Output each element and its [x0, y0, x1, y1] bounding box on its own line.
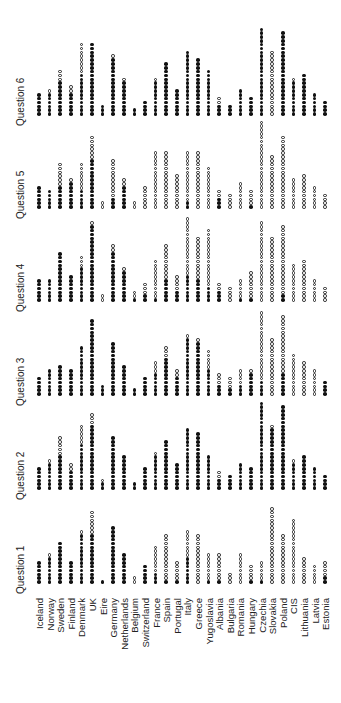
open-dot — [175, 373, 179, 377]
filled-dot — [48, 198, 52, 202]
open-dot — [260, 194, 264, 198]
filled-dot — [58, 205, 62, 209]
filled-dot — [111, 576, 115, 580]
filled-dot — [37, 576, 41, 580]
filled-dot — [164, 471, 168, 475]
open-dot — [69, 178, 73, 182]
open-dot — [270, 271, 274, 275]
open-dot — [260, 331, 264, 335]
filled-dot — [122, 467, 126, 471]
filled-dot — [164, 108, 168, 112]
open-dot — [90, 151, 94, 155]
filled-dot — [90, 538, 94, 542]
filled-dot — [164, 444, 168, 448]
open-dot — [207, 229, 211, 233]
filled-dot — [281, 455, 285, 459]
open-dot — [323, 194, 327, 198]
filled-dot — [260, 463, 264, 467]
open-dot — [69, 467, 73, 471]
filled-dot — [69, 275, 73, 279]
open-dot — [281, 248, 285, 252]
open-dot — [281, 369, 285, 373]
open-dot — [196, 252, 200, 256]
open-dot — [164, 271, 168, 275]
filled-dot — [207, 369, 211, 373]
filled-dot — [58, 186, 62, 190]
filled-dot — [196, 354, 200, 358]
filled-dot — [186, 342, 190, 346]
open-dot — [281, 361, 285, 365]
open-dot — [196, 201, 200, 205]
filled-dot — [122, 97, 126, 101]
filled-dot — [80, 74, 84, 78]
open-dot — [80, 66, 84, 70]
filled-dot — [196, 294, 200, 298]
open-dot — [58, 74, 62, 78]
open-dot — [207, 198, 211, 202]
filled-dot — [90, 323, 94, 327]
filled-dot — [122, 486, 126, 490]
filled-dot — [111, 546, 115, 550]
filled-dot — [58, 264, 62, 268]
open-dot — [207, 561, 211, 565]
open-dot — [175, 561, 179, 565]
filled-dot — [196, 463, 200, 467]
filled-dot — [90, 561, 94, 565]
filled-dot — [186, 448, 190, 452]
filled-dot — [37, 291, 41, 295]
filled-dot — [90, 267, 94, 271]
filled-dot — [90, 182, 94, 186]
filled-dot — [154, 112, 158, 116]
filled-dot — [154, 108, 158, 112]
open-dot — [164, 155, 168, 159]
filled-dot — [302, 108, 306, 112]
country-label: Latvia — [310, 598, 321, 678]
filled-dot — [90, 327, 94, 331]
filled-dot — [143, 108, 147, 112]
filled-dot — [48, 287, 52, 291]
open-dot — [260, 298, 264, 302]
filled-dot — [228, 388, 232, 392]
open-dot — [175, 186, 179, 190]
filled-dot — [281, 417, 285, 421]
open-dot — [186, 549, 190, 553]
open-dot — [196, 198, 200, 202]
open-dot — [281, 323, 285, 327]
open-dot — [196, 267, 200, 271]
filled-dot — [58, 482, 62, 486]
filled-dot — [90, 479, 94, 483]
open-dot — [101, 201, 105, 205]
filled-dot — [164, 388, 168, 392]
filled-dot — [143, 576, 147, 580]
filled-dot — [228, 482, 232, 486]
open-dot — [133, 294, 137, 298]
filled-dot — [249, 385, 253, 389]
filled-dot — [186, 373, 190, 377]
open-dot — [302, 205, 306, 209]
filled-dot — [239, 93, 243, 97]
filled-dot — [90, 74, 94, 78]
filled-dot — [196, 97, 200, 101]
open-dot — [80, 62, 84, 66]
open-dot — [133, 580, 137, 584]
filled-dot — [69, 190, 73, 194]
filled-dot — [58, 573, 62, 577]
filled-dot — [239, 108, 243, 112]
open-dot — [292, 205, 296, 209]
filled-dot — [48, 373, 52, 377]
open-dot — [270, 62, 274, 66]
open-dot — [281, 237, 285, 241]
filled-dot — [313, 486, 317, 490]
filled-dot — [281, 425, 285, 429]
open-dot — [260, 221, 264, 225]
filled-dot — [58, 260, 62, 264]
filled-dot — [281, 467, 285, 471]
filled-dot — [90, 471, 94, 475]
open-dot — [217, 553, 221, 557]
open-dot — [292, 542, 296, 546]
filled-dot — [69, 182, 73, 186]
filled-dot — [122, 471, 126, 475]
open-dot — [313, 576, 317, 580]
open-dot — [111, 178, 115, 182]
open-dot — [186, 233, 190, 237]
